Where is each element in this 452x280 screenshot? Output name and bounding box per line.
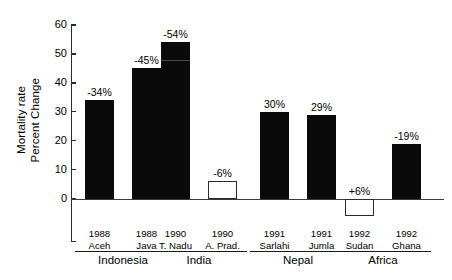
category-place: A. Prad. [194,240,251,252]
y-tick-label-60: 60 [45,19,67,30]
bar-sarlahi [260,112,289,199]
y-tick-label-20: 20 [45,135,67,146]
scan-artifact-line [161,60,190,61]
bar-value-label-sudan: +6% [333,186,386,197]
y-tick-label-40: 40 [45,77,67,88]
y-tick-50 [71,53,76,54]
zero-baseline [71,199,444,200]
bar-value-label-ghana: -19% [380,131,433,142]
bar-java [132,68,161,198]
category-year: 1990 [194,228,251,240]
bar-t-nadu [161,42,190,198]
y-tick-10 [71,169,76,170]
bar-a-prad [208,181,237,198]
category-label-ghana: 1992Ghana [378,228,435,251]
y-axis-title-line-1: Mortality rate [16,86,28,154]
bar-sudan [345,199,374,216]
y-tick-30 [71,111,76,112]
group-label-india: India [151,255,247,267]
bar-ghana [392,144,421,199]
y-axis-line [71,25,72,242]
category-year: 1992 [378,228,435,240]
group-label-nepal: Nepal [250,255,346,267]
category-place: Ghana [378,240,435,252]
bar-value-label-aceh: -34% [73,87,126,98]
bar-value-label-jumla: 29% [295,102,348,113]
y-axis-title: Mortality rate Percent Change [0,0,56,240]
y-tick-label-50: 50 [45,48,67,59]
y-tick-label-10: 10 [45,164,67,175]
y-tick-20 [71,140,76,141]
bar-jumla [307,115,336,199]
mortality-rate-bar-chart: Mortality rate Percent Change 0102030405… [0,0,452,280]
y-tick-40 [71,82,76,83]
group-rule-nepal [250,251,346,252]
category-label-a-prad: 1990A. Prad. [194,228,251,251]
group-rule-africa [335,251,431,252]
y-tick-60 [71,24,76,25]
y-tick-label-30: 30 [45,106,67,117]
group-rule-india [151,251,247,252]
group-label-africa: Africa [335,255,431,267]
y-tick-label-0: 0 [45,193,67,204]
bar-aceh [85,100,114,198]
bar-value-label-sarlahi: 30% [248,99,301,110]
y-axis-title-line-2: Percent Change [30,78,42,163]
bar-value-label-t-nadu: -54% [149,29,202,40]
bar-value-label-a-prad: -6% [196,168,249,179]
